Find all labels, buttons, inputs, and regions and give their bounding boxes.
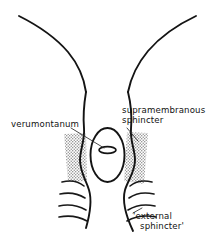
label-verumontanum: verumontanum <box>11 119 79 129</box>
label-external-line1: 'external <box>133 211 184 221</box>
urethral-lumen-oval <box>91 128 125 182</box>
anatomical-figure: verumontanum supramembranous sphincter '… <box>0 0 216 245</box>
label-external-sphincter: 'external sphincter' <box>133 211 184 231</box>
label-supramembranous-sphincter: supramembranous sphincter <box>122 105 205 125</box>
funnel-wall-right <box>128 16 196 92</box>
supramembranous-shading-left <box>60 130 92 186</box>
funnel-wall-left <box>19 16 86 92</box>
external-sphincter-fibers-left <box>59 181 87 221</box>
label-supramembranous-line1: supramembranous <box>122 105 205 115</box>
label-supramembranous-line2: sphincter <box>122 115 205 125</box>
verumontanum-nodule <box>99 147 116 154</box>
label-external-line2: sphincter' <box>133 221 184 231</box>
